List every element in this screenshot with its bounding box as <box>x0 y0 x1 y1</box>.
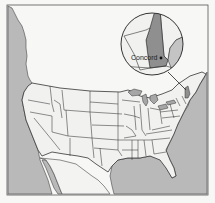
concord-marker <box>160 57 163 60</box>
concord-label: Concord <box>131 54 158 61</box>
us-map: Concord <box>0 0 215 203</box>
